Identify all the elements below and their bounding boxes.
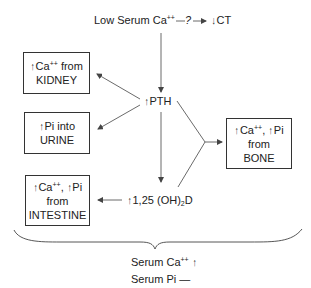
up-arrow-icon: ↑ [235,123,239,137]
bone-pi-text: Pi [274,124,284,136]
up-arrow-icon: ↑ [128,194,132,207]
intestine-line3: INTESTINE [29,208,86,222]
urine-pi-text: Pi into [44,120,75,132]
up-arrow-icon: ↑ [68,180,72,194]
bone-line2: from [248,137,270,151]
intestine-line1: ↑Ca++, ↑Pi [33,180,82,194]
up-arrow-icon: ↑ [145,95,149,108]
urine-box: ↑Pi into URINE [24,112,90,154]
kidney-line1: ↑Ca++ from [30,59,83,73]
up-arrow-icon: ↑ [40,119,44,133]
ca-charge: ++ [181,256,189,263]
up-arrow-icon: ↑ [34,180,38,194]
intestine-box: ↑Ca++, ↑Pi from INTESTINE [25,175,90,226]
kidney-from-text: from [58,60,83,72]
ca-charge: ++ [50,60,58,67]
up-arrow-icon: ↑ [193,256,197,269]
low-serum-ca-label: Low Serum Ca++ [94,14,175,27]
kidney-box: ↑Ca++ from KIDNEY [23,52,90,94]
pth-text: PTH [150,95,172,107]
urine-line2: URINE [40,133,74,147]
arrow-pth-to-urine [98,105,140,129]
low-serum-ca-text: Low Serum Ca [94,14,167,26]
arrow-to-bone [177,101,222,187]
intestine-ca-text: Ca [38,181,52,193]
separator: , [61,181,67,193]
intestine-pi-text: Pi [72,181,82,193]
separator: , [262,124,268,136]
vitd-suffix: D [185,194,193,206]
urine-line1: ↑Pi into [39,119,75,133]
intestine-line2: from [47,194,69,208]
down-arrow-icon: ↓ [212,14,216,27]
bone-line1: ↑Ca++, ↑Pi [234,123,283,137]
ca-charge: ++ [167,14,175,21]
serum-pi-text: Serum Pi [131,273,176,285]
arrow-pth-to-kidney [97,74,140,99]
bone-ca-text: Ca [240,124,254,136]
vitamin-d-label: ↑1,25 (OH)2D [127,194,193,207]
no-change-dash-icon: — [179,273,190,285]
serum-ca-text: Serum Ca [131,256,181,268]
bone-line3: BONE [243,151,274,165]
ct-label: ↓CT [211,14,231,27]
vitd-text: 1,25 (OH) [133,194,181,206]
up-arrow-icon: ↑ [31,59,35,73]
ca-charge: ++ [254,124,262,131]
pth-label: ↑PTH [144,95,172,108]
summary-brace [14,229,302,249]
unknown-mechanism-label: ? [185,14,191,27]
bone-box: ↑Ca++, ↑Pi from BONE [226,118,292,169]
ca-charge: ++ [52,181,60,188]
up-arrow-icon: ↑ [269,123,273,137]
kidney-line2: KIDNEY [36,73,77,87]
kidney-ca-text: Ca [36,60,50,72]
serum-pi-result: Serum Pi — [131,273,190,286]
ct-text: CT [217,14,232,26]
serum-ca-result: Serum Ca++ ↑ [131,256,197,269]
